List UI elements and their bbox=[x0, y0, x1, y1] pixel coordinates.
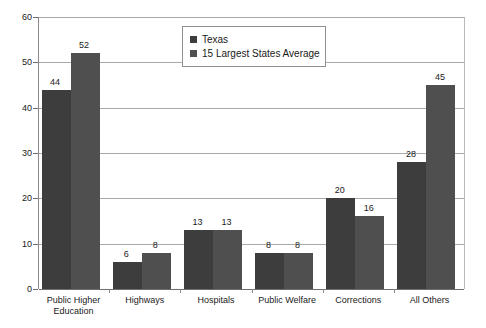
bar-value-label: 8 bbox=[254, 241, 283, 250]
bar bbox=[255, 253, 284, 289]
bar-value-label: 28 bbox=[396, 150, 425, 159]
bar bbox=[284, 253, 313, 289]
x-tick-mark bbox=[323, 289, 324, 293]
category-label: Corrections bbox=[323, 295, 394, 306]
category-label: Public Welfare bbox=[252, 295, 323, 306]
y-tick-label: 50 bbox=[2, 58, 32, 67]
bar-value-label: 16 bbox=[354, 204, 383, 213]
bar-value-label: 44 bbox=[41, 78, 70, 87]
bar bbox=[213, 230, 242, 289]
x-tick-mark bbox=[180, 289, 181, 293]
y-tick-label: 0 bbox=[2, 285, 32, 294]
bar bbox=[113, 262, 142, 289]
x-tick-mark bbox=[109, 289, 110, 293]
bar bbox=[355, 216, 384, 289]
y-tick-label: 40 bbox=[2, 104, 32, 113]
y-tick-mark bbox=[33, 289, 38, 290]
bar bbox=[142, 253, 171, 289]
legend-label: 15 Largest States Average bbox=[202, 48, 320, 59]
category-label: All Others bbox=[394, 295, 465, 306]
bar bbox=[426, 85, 455, 289]
chart-legend: Texas 15 Largest States Average bbox=[182, 26, 326, 67]
bar-value-label: 8 bbox=[141, 241, 170, 250]
bar-value-label: 13 bbox=[183, 218, 212, 227]
category-label: Public Higher Education bbox=[38, 295, 109, 317]
gridline bbox=[39, 17, 464, 18]
legend-item-15-largest-states-average: 15 Largest States Average bbox=[190, 46, 318, 60]
x-tick-mark bbox=[394, 289, 395, 293]
bar-value-label: 52 bbox=[70, 41, 99, 50]
y-tick-label: 30 bbox=[2, 149, 32, 158]
y-tick-label: 20 bbox=[2, 194, 32, 203]
legend-label: Texas bbox=[202, 34, 228, 45]
bar-value-label: 6 bbox=[112, 250, 141, 259]
bar-value-label: 8 bbox=[283, 241, 312, 250]
category-label: Hospitals bbox=[180, 295, 251, 306]
bar bbox=[71, 53, 100, 289]
bar-chart: 0102030405060 44526813138820162845 Publi… bbox=[0, 0, 486, 328]
bar-value-label: 13 bbox=[212, 218, 241, 227]
category-label: Highways bbox=[109, 295, 180, 306]
bar bbox=[397, 162, 426, 289]
bar bbox=[42, 90, 71, 289]
bar-value-label: 45 bbox=[425, 73, 454, 82]
legend-swatch-icon bbox=[190, 50, 197, 57]
bar bbox=[184, 230, 213, 289]
bar-value-label: 20 bbox=[325, 186, 354, 195]
gridline bbox=[39, 108, 464, 109]
y-tick-label: 60 bbox=[2, 13, 32, 22]
y-tick-label: 10 bbox=[2, 240, 32, 249]
legend-swatch-icon bbox=[190, 36, 197, 43]
bar bbox=[326, 198, 355, 289]
x-tick-mark bbox=[252, 289, 253, 293]
legend-item-texas: Texas bbox=[190, 32, 318, 46]
